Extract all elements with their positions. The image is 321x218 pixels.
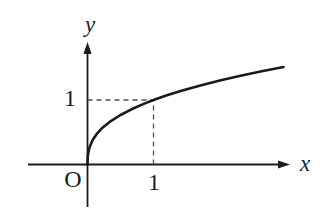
y-axis-label: y xyxy=(85,13,95,36)
x-axis-arrowhead-icon xyxy=(278,160,290,168)
function-graph-figure: y x O 1 1 xyxy=(0,0,321,218)
function-curve xyxy=(88,67,284,165)
y-axis-arrowhead-icon xyxy=(83,42,91,54)
y-tick-label-1: 1 xyxy=(64,86,76,110)
origin-label: O xyxy=(64,167,81,191)
x-tick-label-1: 1 xyxy=(148,170,160,194)
plot-svg xyxy=(0,0,321,218)
x-axis-label: x xyxy=(300,152,310,175)
